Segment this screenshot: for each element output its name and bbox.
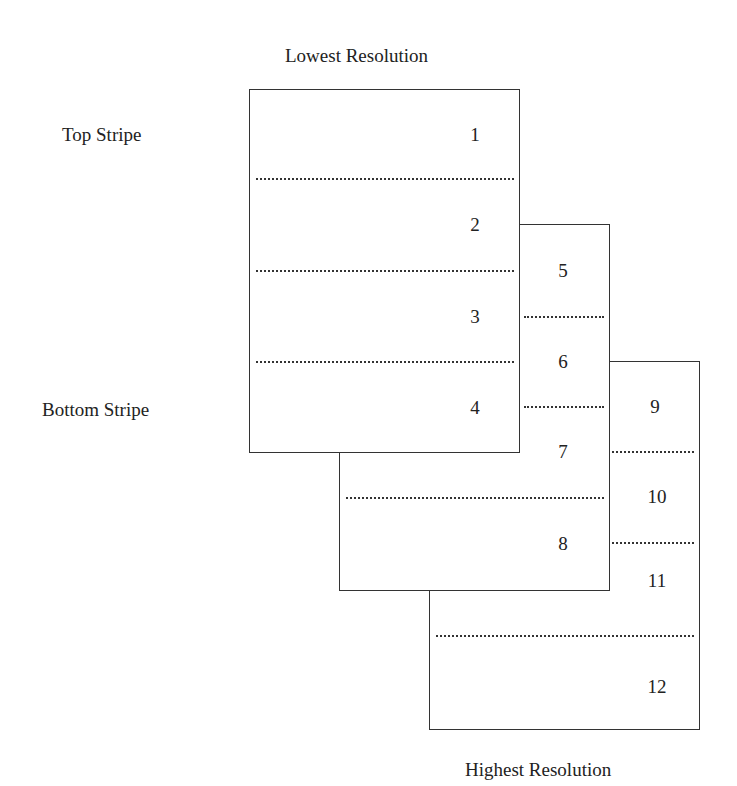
stripe-number: 3 bbox=[460, 306, 490, 328]
stripe-number: 2 bbox=[460, 214, 490, 236]
stripe-number: 1 bbox=[460, 124, 490, 146]
stripe-divider bbox=[436, 635, 694, 637]
stripe-divider bbox=[346, 497, 604, 499]
bottom-stripe-label: Bottom Stripe bbox=[42, 399, 149, 421]
stripe-number: 9 bbox=[640, 396, 670, 418]
stripe-number: 5 bbox=[548, 260, 578, 282]
stripe-divider bbox=[256, 361, 514, 363]
stripe-divider bbox=[612, 451, 694, 453]
stripe-number: 10 bbox=[642, 486, 672, 508]
highest-resolution-label: Highest Resolution bbox=[465, 759, 611, 781]
stripe-divider bbox=[524, 406, 604, 408]
stripe-number: 12 bbox=[642, 676, 672, 698]
stripe-divider bbox=[524, 316, 604, 318]
stripe-divider bbox=[256, 270, 514, 272]
stripe-number: 6 bbox=[548, 351, 578, 373]
lowest-resolution-label: Lowest Resolution bbox=[285, 45, 428, 67]
top-stripe-label: Top Stripe bbox=[62, 124, 141, 146]
stripe-number: 11 bbox=[642, 570, 672, 592]
stripe-number: 4 bbox=[460, 397, 490, 419]
stripe-number: 8 bbox=[548, 533, 578, 555]
stripe-divider bbox=[612, 542, 694, 544]
stripe-divider bbox=[256, 178, 514, 180]
stripe-number: 7 bbox=[548, 441, 578, 463]
